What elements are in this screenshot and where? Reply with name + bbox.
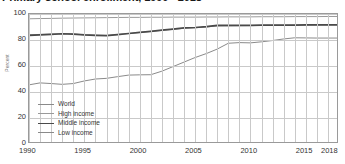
y-tick-label: 60 (0, 61, 26, 68)
chart-container: Primary school enrollment, 1990 - 2018 P… (0, 0, 345, 164)
legend-label: Middle income (58, 119, 100, 127)
gridline-vertical (273, 14, 274, 142)
gridline-vertical (29, 14, 30, 142)
gridline-vertical (284, 14, 285, 142)
gridline-horizontal (29, 14, 337, 15)
legend-item-world[interactable]: World (38, 100, 100, 108)
gridline-vertical (228, 14, 229, 142)
legend-label: High income (58, 110, 94, 118)
gridline-vertical (151, 14, 152, 142)
y-tick-label: 0 (0, 139, 26, 146)
gridline-vertical (195, 14, 196, 142)
gridline-vertical (262, 14, 263, 142)
gridline-vertical (295, 14, 296, 142)
x-tick-label: 2015 (296, 146, 313, 155)
gridline-vertical (107, 14, 108, 142)
gridline-horizontal (29, 40, 337, 41)
gridline-vertical (184, 14, 185, 142)
x-tick-label: 1990 (19, 146, 36, 155)
legend-swatch-icon (38, 113, 54, 114)
gridline-vertical (173, 14, 174, 142)
legend-swatch-icon (38, 104, 54, 105)
legend-item-middle-income[interactable]: Middle income (38, 119, 100, 127)
legend-label: Low income (58, 129, 93, 137)
legend-swatch-icon (38, 123, 54, 124)
y-axis-ticks: 100806040200 (0, 0, 26, 164)
gridline-vertical (162, 14, 163, 142)
gridline-vertical (206, 14, 207, 142)
gridline-vertical (217, 14, 218, 142)
y-tick-label: 80 (0, 35, 26, 42)
x-tick-label: 2010 (240, 146, 257, 155)
gridline-vertical (306, 14, 307, 142)
y-tick-label: 100 (0, 9, 26, 16)
gridline-vertical (140, 14, 141, 142)
gridline-horizontal (29, 92, 337, 93)
gridline-vertical (328, 14, 329, 142)
y-tick-label: 20 (0, 113, 26, 120)
chart-legend: WorldHigh incomeMiddle incomeLow income (38, 100, 100, 138)
x-tick-label: 2018 (321, 146, 338, 155)
legend-label: World (58, 100, 75, 108)
y-tick-label: 40 (0, 87, 26, 94)
chart-title: Primary school enrollment, 1990 - 2018 (2, 0, 202, 3)
x-tick-label: 1995 (74, 146, 91, 155)
gridline-horizontal (29, 66, 337, 67)
x-tick-label: 2000 (130, 146, 147, 155)
legend-swatch-icon (38, 132, 54, 133)
gridline-vertical (118, 14, 119, 142)
gridline-vertical (250, 14, 251, 142)
legend-item-low-income[interactable]: Low income (38, 129, 100, 137)
gridline-vertical (317, 14, 318, 142)
gridline-vertical (129, 14, 130, 142)
legend-item-high-income[interactable]: High income (38, 110, 100, 118)
x-tick-label: 2005 (185, 146, 202, 155)
gridline-vertical (239, 14, 240, 142)
